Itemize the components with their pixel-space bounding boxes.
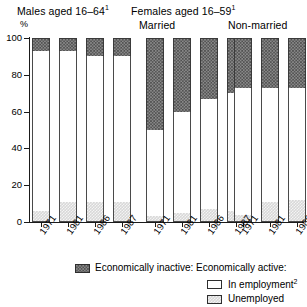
group-title-females: Females aged 16–591 bbox=[131, 4, 235, 17]
bar-segment-economically-inactive bbox=[173, 38, 191, 112]
y-axis-unit-label: % bbox=[20, 19, 28, 29]
subgroup-title-married: Married bbox=[139, 19, 175, 31]
bar-segment-in-employment bbox=[261, 88, 279, 202]
bar-segment-in-employment bbox=[288, 88, 306, 200]
bar-segment-in-employment bbox=[234, 88, 252, 215]
stacked-bar bbox=[200, 38, 218, 222]
bar-segment-economically-inactive bbox=[32, 38, 50, 51]
footnote-marker-1: 1 bbox=[105, 4, 109, 11]
y-tick-label-0: 0 bbox=[0, 216, 22, 227]
bar-segment-economically-inactive bbox=[86, 38, 104, 56]
y-axis-line bbox=[29, 37, 30, 223]
y-tick-0 bbox=[24, 222, 29, 223]
stacked-bar bbox=[234, 38, 252, 222]
chart-figure: Males aged 16–641 Females aged 16–591 Ma… bbox=[0, 0, 307, 307]
legend-label-in-employment: In employment2 bbox=[228, 278, 298, 290]
bar-segment-economically-inactive bbox=[146, 38, 164, 130]
bar-segment-in-employment bbox=[86, 56, 104, 201]
bar-segment-economically-inactive bbox=[261, 38, 279, 88]
stacked-bar bbox=[288, 38, 306, 222]
bar-segment-economically-inactive bbox=[59, 38, 77, 51]
stacked-bar bbox=[32, 38, 50, 222]
y-tick-label-20: 20 bbox=[0, 179, 22, 190]
stacked-bar bbox=[86, 38, 104, 222]
chart-legend: Economically inactive: Economically acti… bbox=[0, 258, 307, 307]
footnote-marker-1b: 1 bbox=[231, 4, 235, 11]
y-tick-60 bbox=[24, 112, 29, 113]
footnote-marker-2: 2 bbox=[294, 278, 298, 285]
bar-segment-economically-inactive bbox=[200, 38, 218, 99]
legend-swatch-in-employment bbox=[207, 280, 222, 289]
bar-segment-in-employment bbox=[32, 51, 50, 211]
stacked-bar bbox=[59, 38, 77, 222]
legend-label-unemployed: Unemployed bbox=[228, 293, 284, 304]
legend-swatch-inactive bbox=[75, 264, 90, 273]
bar-segment-economically-inactive bbox=[234, 38, 252, 88]
stacked-bar bbox=[261, 38, 279, 222]
stacked-bar bbox=[113, 38, 131, 222]
bar-segment-in-employment bbox=[200, 99, 218, 209]
bar-segment-in-employment bbox=[173, 112, 191, 213]
y-tick-label-100: 100 bbox=[0, 32, 22, 43]
legend-swatch-unemployed bbox=[207, 295, 222, 304]
legend-label-active: Economically active: bbox=[196, 262, 287, 273]
subgroup-title-nonmarried: Non-married bbox=[228, 19, 287, 31]
legend-label-inactive: Economically inactive: bbox=[95, 262, 193, 273]
y-tick-100 bbox=[24, 38, 29, 39]
y-tick-80 bbox=[24, 75, 29, 76]
stacked-bar bbox=[173, 38, 191, 222]
group-title-males: Males aged 16–641 bbox=[17, 4, 109, 17]
bar-segment-economically-inactive bbox=[288, 38, 306, 88]
y-tick-40 bbox=[24, 148, 29, 149]
bar-segment-in-employment bbox=[59, 51, 77, 202]
stacked-bar bbox=[146, 38, 164, 222]
y-tick-20 bbox=[24, 185, 29, 186]
bar-segment-economically-inactive bbox=[113, 38, 131, 56]
y-tick-label-40: 40 bbox=[0, 142, 22, 153]
bar-segment-in-employment bbox=[113, 56, 131, 201]
y-tick-label-80: 80 bbox=[0, 69, 22, 80]
bar-segment-in-employment bbox=[146, 130, 164, 216]
y-tick-label-60: 60 bbox=[0, 106, 22, 117]
